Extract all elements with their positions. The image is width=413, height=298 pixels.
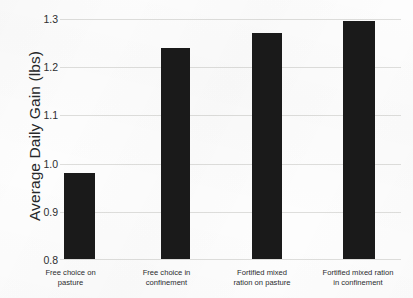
y-tick-1.2: 1.2 [32, 61, 58, 73]
bar-chart: Average Daily Gain (lbs) 1.3 1.2 1.1 1.0… [0, 0, 413, 298]
x-category-label-0: Free choice on pasture [28, 268, 113, 287]
y-tick-1.0: 1.0 [32, 158, 58, 170]
bar-1 [161, 48, 190, 259]
x-category-label-2: Fortified mixed ration on pasture [213, 268, 311, 287]
y-tick-0.9: 0.9 [32, 206, 58, 218]
y-axis-tick-labels: 1.3 1.2 1.1 1.0 0.9 0.8 [30, 12, 58, 260]
y-tick-0.8: 0.8 [32, 254, 58, 266]
y-tick-1.3: 1.3 [32, 13, 58, 25]
gridline-0.8-baseline [60, 259, 401, 260]
bar-2 [252, 33, 282, 259]
gridline-1.3 [60, 19, 401, 20]
plot-area [60, 12, 401, 260]
bar-0 [64, 173, 95, 259]
x-category-label-3: Fortified mixed ration in confinement [307, 268, 409, 287]
bar-3 [343, 21, 375, 259]
x-category-label-1: Free choice in confinement [128, 268, 205, 287]
y-tick-1.1: 1.1 [32, 109, 58, 121]
